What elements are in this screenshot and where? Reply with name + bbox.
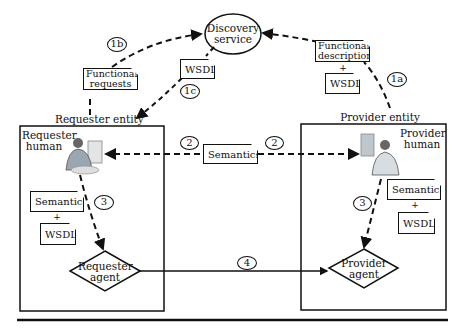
semantics-2-doc: Semantics — [203, 144, 258, 164]
step-badge-1c: 1c — [180, 84, 200, 99]
requester-entity-title: Requester entity — [55, 114, 135, 125]
provider-human-icon — [361, 134, 399, 175]
requester-semantics-doc: Semantics — [30, 191, 84, 212]
discovery-service-label: Discovery service — [205, 23, 261, 45]
plus-1a: + — [338, 64, 348, 73]
step-badge-3-right: 3 — [353, 196, 372, 211]
flow-3-right-arrow — [364, 179, 381, 247]
step-badge-2-left: 2 — [180, 136, 199, 150]
discovery-label-line2: service — [205, 34, 261, 45]
step-badge-2-right: 2 — [265, 136, 284, 150]
requester-wsdl-doc: WSDL — [40, 223, 76, 245]
wsdl-1c-doc: WSDL — [180, 59, 215, 79]
step-badge-1a: 1a — [387, 72, 407, 87]
step-badge-1b: 1b — [107, 37, 127, 52]
provider-agent-label: Provider agent — [337, 258, 391, 280]
provider-entity-title: Provider entity — [340, 112, 420, 123]
step-badge-4: 4 — [237, 256, 257, 270]
functional-description-doc: Functional description — [315, 40, 370, 62]
flow-3-left-arrow — [80, 175, 103, 249]
requester-agent-label: Requester agent — [78, 261, 132, 283]
requester-agent-line2: agent — [78, 272, 132, 283]
functional-description-line2: description — [318, 51, 367, 61]
provider-agent-line2: agent — [337, 269, 391, 280]
provider-human-label: Provider human — [400, 128, 444, 150]
requester-human-icon — [66, 138, 102, 174]
flow-1c-arrow — [137, 47, 214, 118]
requester-human-line2: human — [22, 141, 66, 152]
functional-requests-doc: Functional requests — [83, 68, 138, 90]
step-badge-3-left: 3 — [94, 195, 114, 210]
provider-semantics-doc: Semantics — [387, 179, 441, 200]
wsdl-1a-doc: WSDL — [325, 73, 360, 94]
requester-plus: + — [52, 213, 62, 222]
provider-wsdl-doc: WSDL — [398, 212, 435, 234]
provider-human-line2: human — [400, 139, 444, 150]
functional-requests-line2: requests — [86, 79, 135, 89]
requester-human-label: Requester human — [22, 130, 66, 152]
provider-plus: + — [410, 201, 420, 210]
diagram-canvas — [0, 0, 462, 329]
